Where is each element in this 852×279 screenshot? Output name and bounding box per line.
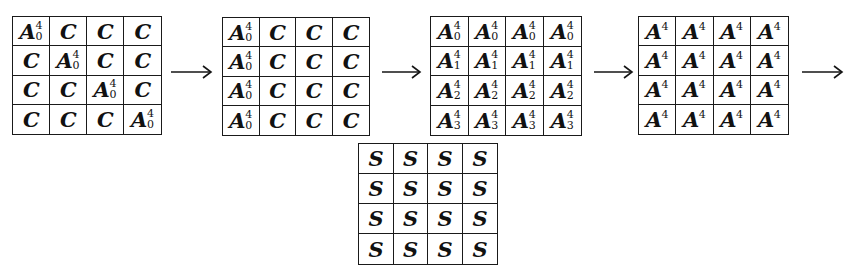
math-symbol: A4 bbox=[683, 109, 706, 130]
symbol-base: C bbox=[134, 19, 150, 44]
symbol-script-pair: 41 bbox=[567, 50, 574, 70]
matrix-cell: A40 bbox=[223, 47, 260, 76]
symbol-base: C bbox=[97, 19, 113, 44]
arrow-2 bbox=[381, 62, 425, 82]
math-symbol: A4 bbox=[683, 21, 706, 42]
math-symbol: C bbox=[306, 80, 322, 101]
matrix-cell: A4 bbox=[751, 76, 788, 105]
symbol-base: S bbox=[403, 206, 418, 231]
symbol-subscript: 3 bbox=[491, 120, 498, 131]
symbol-script-pair: 40 bbox=[109, 79, 116, 99]
math-symbol: C bbox=[60, 79, 76, 100]
matrix-cell: A40 bbox=[223, 18, 260, 47]
symbol-base: A bbox=[683, 107, 699, 132]
symbol-base: A bbox=[720, 77, 736, 102]
symbol-superscript: 4 bbox=[662, 108, 669, 121]
symbol-base: A bbox=[229, 49, 245, 74]
matrix-cell: A41 bbox=[431, 47, 469, 77]
matrix-cell: A40 bbox=[544, 17, 582, 47]
math-symbol: S bbox=[368, 148, 383, 169]
symbol-superscript: 4 bbox=[699, 78, 706, 91]
arrow-3 bbox=[593, 62, 637, 82]
symbol-subscript: 0 bbox=[567, 31, 574, 42]
math-symbol: A40 bbox=[513, 21, 536, 42]
symbol-base: A bbox=[513, 48, 529, 73]
symbol-script-pair: 43 bbox=[567, 110, 574, 130]
symbol-base: A bbox=[646, 107, 662, 132]
matrix-cell: A4 bbox=[714, 46, 751, 75]
symbol-base: A bbox=[20, 19, 36, 44]
matrix-cell: S bbox=[359, 144, 394, 174]
symbol-base: A bbox=[513, 19, 529, 44]
symbol-script-pair: 43 bbox=[454, 110, 461, 130]
math-symbol: C bbox=[134, 79, 150, 100]
matrix-4: A4A4A4A4A4A4A4A4A4A4A4A4A4A4A4A4 bbox=[638, 16, 789, 135]
math-symbol: C bbox=[269, 80, 285, 101]
symbol-base: S bbox=[403, 146, 418, 171]
symbol-base: A bbox=[646, 77, 662, 102]
matrix-cell: S bbox=[394, 234, 429, 264]
math-symbol: S bbox=[403, 148, 418, 169]
matrix-cell: A40 bbox=[431, 17, 469, 47]
symbol-base: C bbox=[343, 78, 359, 103]
math-symbol: A42 bbox=[475, 80, 498, 101]
math-symbol: A40 bbox=[20, 21, 43, 42]
symbol-subscript: 0 bbox=[35, 31, 42, 42]
math-symbol: A41 bbox=[438, 50, 461, 71]
math-symbol: C bbox=[269, 110, 285, 131]
math-symbol: A4 bbox=[758, 21, 781, 42]
symbol-subscript: 1 bbox=[454, 60, 461, 71]
symbol-base: C bbox=[97, 107, 113, 132]
matrix-cell: C bbox=[296, 18, 333, 47]
symbol-base: C bbox=[269, 20, 285, 45]
math-symbol: S bbox=[472, 148, 487, 169]
symbol-base: A bbox=[57, 48, 73, 73]
symbol-subscript: 0 bbox=[245, 90, 252, 101]
matrix-cell: S bbox=[359, 234, 394, 264]
math-symbol: A40 bbox=[229, 22, 252, 43]
math-symbol: C bbox=[343, 80, 359, 101]
matrix-cell: A4 bbox=[714, 17, 751, 46]
symbol-base: C bbox=[60, 19, 76, 44]
math-symbol: S bbox=[368, 208, 383, 229]
matrix-cell: A41 bbox=[544, 47, 582, 77]
matrix-cell: C bbox=[260, 18, 297, 47]
symbol-base: C bbox=[306, 108, 322, 133]
symbol-base: S bbox=[368, 176, 383, 201]
symbol-base: A bbox=[758, 48, 774, 73]
matrix-cell: A40 bbox=[506, 17, 544, 47]
matrix-cell: A41 bbox=[506, 47, 544, 77]
math-symbol: S bbox=[437, 148, 452, 169]
symbol-subscript: 2 bbox=[491, 90, 498, 101]
symbol-script-pair: 41 bbox=[454, 50, 461, 70]
matrix-cell: A4 bbox=[714, 105, 751, 134]
symbol-base: C bbox=[269, 108, 285, 133]
symbol-base: A bbox=[551, 48, 567, 73]
symbol-superscript: 4 bbox=[774, 108, 781, 121]
symbol-script-pair: 40 bbox=[529, 21, 536, 41]
symbol-base: A bbox=[720, 19, 736, 44]
math-symbol: A41 bbox=[475, 50, 498, 71]
matrix-cell: A40 bbox=[223, 77, 260, 106]
math-symbol: S bbox=[472, 239, 487, 260]
symbol-superscript: 4 bbox=[774, 49, 781, 62]
matrix-cell: A4 bbox=[639, 76, 676, 105]
symbol-superscript: 4 bbox=[662, 20, 669, 33]
math-symbol: A43 bbox=[513, 110, 536, 131]
matrix-s: SSSSSSSSSSSSSSSS bbox=[358, 143, 498, 265]
math-symbol: C bbox=[134, 50, 150, 71]
matrix-cell: A43 bbox=[469, 106, 507, 136]
symbol-base: A bbox=[720, 48, 736, 73]
symbol-base: A bbox=[229, 20, 245, 45]
matrix-cell: C bbox=[333, 106, 370, 135]
math-symbol: S bbox=[368, 239, 383, 260]
symbol-superscript: 4 bbox=[736, 49, 743, 62]
math-symbol: S bbox=[403, 178, 418, 199]
symbol-superscript: 4 bbox=[774, 78, 781, 91]
math-symbol: A42 bbox=[551, 80, 574, 101]
symbol-script-pair: 40 bbox=[245, 51, 252, 71]
symbol-base: C bbox=[134, 77, 150, 102]
arrow-1 bbox=[170, 62, 216, 82]
symbol-base: S bbox=[368, 206, 383, 231]
symbol-base: S bbox=[472, 237, 487, 262]
